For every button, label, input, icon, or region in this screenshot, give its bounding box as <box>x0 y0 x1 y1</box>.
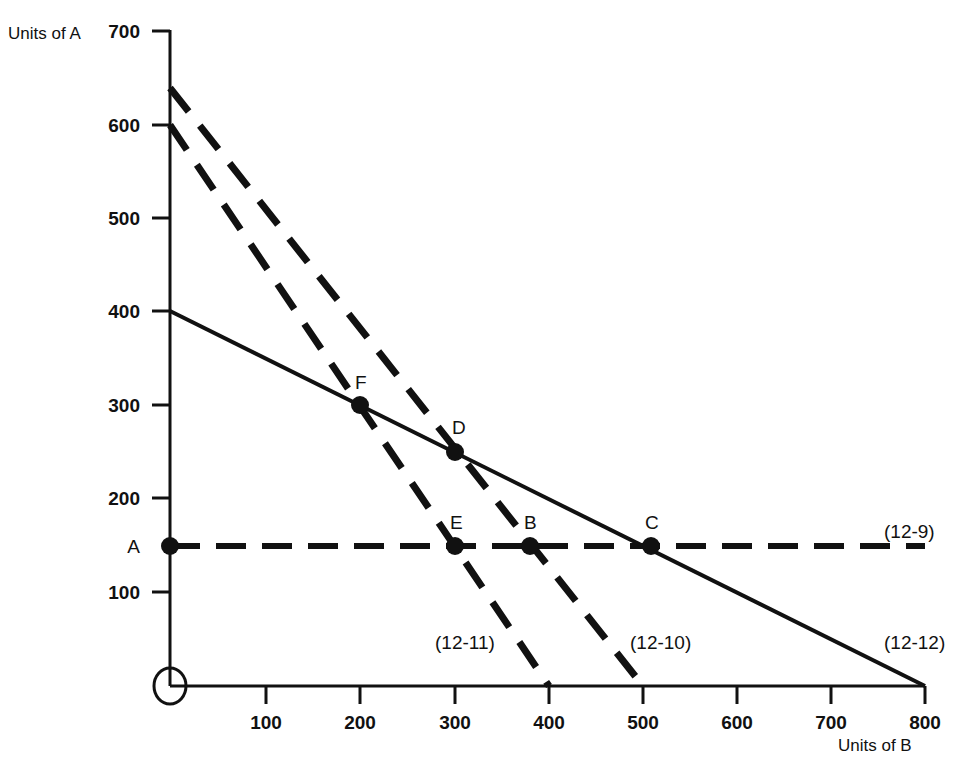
x-tick-label-400: 400 <box>519 713 579 732</box>
data-point-A[interactable] <box>161 537 179 555</box>
chart-canvas <box>0 0 967 776</box>
data-point-markers <box>161 396 660 555</box>
y-tick-label-300: 300 <box>82 396 140 415</box>
data-point-E[interactable] <box>446 537 464 555</box>
data-point-label-E: E <box>450 513 463 532</box>
data-point-B[interactable] <box>521 537 539 555</box>
x-tick-label-300: 300 <box>425 713 485 732</box>
data-point-label-C: C <box>645 513 659 532</box>
y-tick-marks <box>152 31 170 592</box>
x-tick-label-600: 600 <box>707 713 767 732</box>
line-label-12-9: (12-9) <box>884 522 935 541</box>
x-tick-label-800: 800 <box>895 713 955 732</box>
y-tick-label-700: 700 <box>82 22 140 41</box>
y-tick-label-600: 600 <box>82 116 140 135</box>
x-tick-label-100: 100 <box>236 713 296 732</box>
line-label-12-12: (12-12) <box>884 633 945 652</box>
axes-group <box>154 30 925 704</box>
series-line-12-10 <box>170 88 643 686</box>
x-tick-label-200: 200 <box>330 713 390 732</box>
y-tick-label-200: 200 <box>82 489 140 508</box>
y-axis-point-label-A: A <box>96 537 140 556</box>
series-line-12-12 <box>170 311 925 686</box>
data-point-C[interactable] <box>642 537 660 555</box>
x-tick-label-700: 700 <box>801 713 861 732</box>
x-axis-title: Units of B <box>838 737 912 754</box>
y-tick-label-100: 100 <box>82 583 140 602</box>
line-label-12-11: (12-11) <box>435 633 495 652</box>
y-tick-label-500: 500 <box>82 209 140 228</box>
y-tick-label-400: 400 <box>82 302 140 321</box>
data-point-D[interactable] <box>446 443 464 461</box>
series-group <box>170 88 925 686</box>
x-tick-label-500: 500 <box>613 713 673 732</box>
y-axis-title: Units of A <box>8 25 81 42</box>
data-point-label-B: B <box>524 513 537 532</box>
chart-figure: Units of A Units of B 700 600 500 400 30… <box>0 0 967 776</box>
line-label-12-10: (12-10) <box>630 633 691 652</box>
data-point-F[interactable] <box>351 396 369 414</box>
data-point-label-F: F <box>355 373 367 392</box>
data-point-label-D: D <box>452 418 466 437</box>
x-tick-marks <box>266 686 925 704</box>
